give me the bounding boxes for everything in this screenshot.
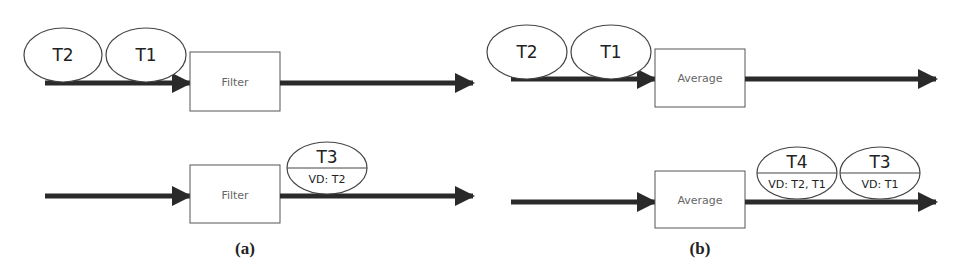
operator-label: Average: [677, 72, 722, 85]
token-t3: T3 VD: T1: [840, 147, 920, 199]
token-label: T2: [515, 42, 537, 62]
operator-box-filter: Filter: [190, 52, 280, 111]
stream-operator-diagram: T2 T1 Filter Filter T3: [0, 0, 962, 278]
panel-caption: (b): [690, 239, 711, 258]
token-t3: T3 VD: T2: [287, 142, 367, 194]
operator-label: Average: [677, 194, 722, 207]
operator-label: Filter: [221, 76, 249, 89]
panel-b-bottom-row: Average T4 VD: T2, T1 T3 VD: T1: [511, 147, 936, 228]
operator-box-average: Average: [655, 171, 745, 228]
token-vd-label: VD: T2: [309, 173, 346, 186]
panel-b: T2 T1 Average Average T4: [487, 25, 936, 258]
token-t1: T1: [106, 28, 186, 82]
token-t2: T2: [487, 25, 567, 79]
token-label: T3: [868, 152, 890, 172]
operator-box-average: Average: [655, 49, 745, 107]
panel-caption: (a): [235, 239, 255, 258]
token-vd-label: VD: T2, T1: [768, 178, 826, 191]
token-t2: T2: [24, 28, 102, 82]
token-label: T1: [599, 42, 621, 62]
panel-a-bottom-row: Filter T3 VD: T2: [45, 142, 473, 223]
token-t4: T4 VD: T2, T1: [757, 147, 837, 199]
token-label: T3: [315, 147, 337, 167]
token-label: T2: [51, 45, 73, 65]
token-t1: T1: [571, 25, 651, 79]
panel-b-top-row: T2 T1 Average: [487, 25, 936, 107]
token-vd-label: VD: T1: [862, 178, 899, 191]
token-label: T1: [134, 45, 156, 65]
panel-a: T2 T1 Filter Filter T3: [24, 28, 473, 258]
panel-a-top-row: T2 T1 Filter: [24, 28, 473, 111]
operator-box-filter: Filter: [190, 165, 280, 223]
operator-label: Filter: [221, 189, 249, 202]
token-label: T4: [785, 152, 807, 172]
